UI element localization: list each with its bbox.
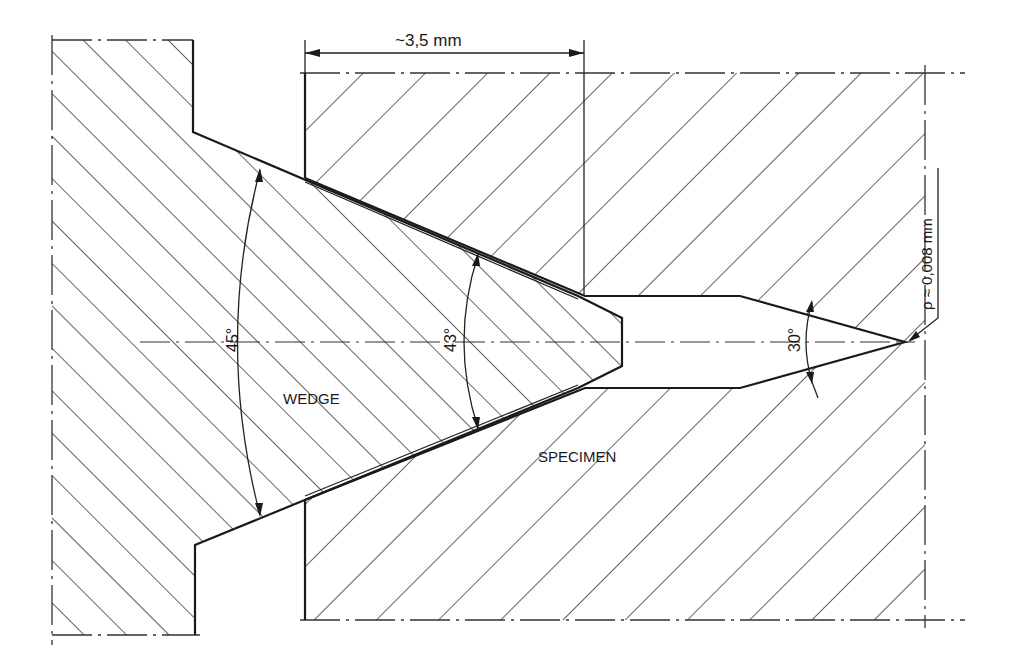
wedge-label: WEDGE <box>283 390 340 407</box>
angle-30-label: 30° <box>786 328 803 352</box>
angle-43-label: 43° <box>442 328 459 352</box>
specimen-label: SPECIMEN <box>538 448 616 465</box>
angle-45-label: 45° <box>224 328 241 352</box>
wedge-specimen-diagram: ~3,5 mm 45° 43° 30° ρ ≈ 0,008 mm WEDGE S… <box>0 0 1009 670</box>
dimension-label: ~3,5 mm <box>395 31 462 50</box>
notch-radius-label: ρ ≈ 0,008 mm <box>918 218 935 310</box>
